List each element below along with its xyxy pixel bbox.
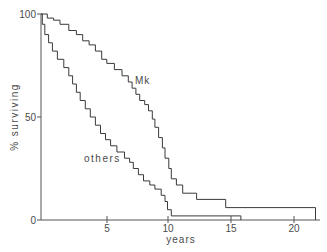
x-tick-label-10: 10 (162, 223, 174, 234)
series-mk-curve (41, 14, 316, 220)
x-axis-title: years (166, 234, 195, 245)
y-tick-label-100: 100 (19, 9, 36, 20)
series-label-others: others (84, 153, 121, 164)
x-tick-label-15: 15 (225, 223, 237, 234)
y-axis-title: % surviving (9, 83, 20, 151)
x-tick-label-20: 20 (288, 223, 300, 234)
series-label-mk: Mk (135, 75, 150, 86)
chart-svg: 100 50 0 5 10 15 20 years % surviving Mk… (0, 0, 327, 252)
survival-chart: 100 50 0 5 10 15 20 years % surviving Mk… (0, 0, 327, 252)
y-tick-label-50: 50 (25, 112, 37, 123)
y-tick-label-0: 0 (30, 215, 36, 226)
series-others-curve (41, 14, 241, 220)
x-tick-label-5: 5 (104, 223, 110, 234)
